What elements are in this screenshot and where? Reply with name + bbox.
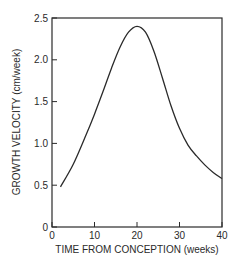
line-chart: 010203040 00.51.01.52.02.5 TIME FROM CON… <box>0 0 243 263</box>
x-axis-ticks: 010203040 <box>49 222 228 241</box>
svg-text:0: 0 <box>49 230 55 241</box>
svg-text:1.0: 1.0 <box>34 138 48 149</box>
y-axis-ticks: 00.51.01.52.02.5 <box>34 13 57 233</box>
svg-text:30: 30 <box>174 230 186 241</box>
svg-text:40: 40 <box>216 230 228 241</box>
x-axis-label: TIME FROM CONCEPTION (weeks) <box>55 244 218 255</box>
svg-text:2.5: 2.5 <box>34 13 48 24</box>
growth-velocity-line <box>61 26 223 187</box>
svg-text:20: 20 <box>131 230 143 241</box>
svg-text:0.5: 0.5 <box>34 180 48 191</box>
svg-text:0: 0 <box>42 222 48 233</box>
plot-frame <box>52 18 222 227</box>
svg-text:1.5: 1.5 <box>34 96 48 107</box>
svg-text:2.0: 2.0 <box>34 54 48 65</box>
y-axis-label: GROWTH VELOCITY (cm/week) <box>11 49 22 196</box>
svg-text:10: 10 <box>89 230 101 241</box>
